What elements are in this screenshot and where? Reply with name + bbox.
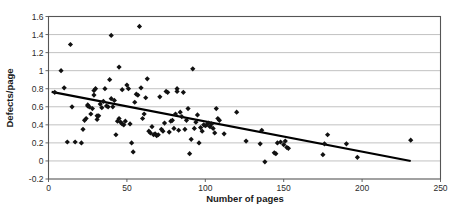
data-point [79,140,84,145]
y-axis-title: Defects/page [4,68,15,127]
x-tick-label: 250 [433,183,447,193]
data-point [120,87,125,92]
data-point [325,132,330,137]
y-axis-ticks: -0.200.20.40.60.811.21.41.6 [29,12,49,185]
data-point [127,121,132,126]
x-tick-label: 100 [198,183,212,193]
x-tick-label: 150 [277,183,291,193]
data-point [102,86,107,91]
data-point [187,151,192,156]
data-point [109,33,114,38]
x-axis-title: Number of pages [206,193,284,204]
y-tick-label: 1.2 [32,48,44,58]
y-tick-label: 1.4 [32,30,44,40]
data-point [181,90,186,95]
data-point [132,100,137,105]
data-point [182,127,187,132]
y-tick-label: 1.6 [32,12,44,22]
data-point [179,114,184,119]
scatter-points [52,24,413,165]
x-tick-label: 200 [355,183,369,193]
data-point [143,95,148,100]
data-point [189,137,194,142]
data-point [73,139,78,144]
data-point [145,76,150,81]
data-point [88,111,93,116]
data-point [157,94,162,99]
data-point [68,42,73,47]
data-point [107,77,112,82]
data-point [344,141,349,146]
data-point [178,110,183,115]
data-point [58,68,63,73]
y-tick-label: 1 [39,66,44,76]
data-point [65,139,70,144]
trendline [52,92,411,161]
data-point [80,127,85,132]
data-point [262,159,267,164]
data-point [408,138,413,143]
data-point [69,104,74,109]
x-tick-label: 0 [46,183,51,193]
y-tick-label: 0 [39,156,44,166]
x-axis-ticks: 050100150200250 [46,179,448,193]
data-point [62,85,67,90]
data-point [176,128,181,133]
trendline-segment [52,92,411,161]
data-point [140,116,145,121]
data-point [129,140,134,145]
y-tick-label: -0.2 [29,174,44,184]
data-point [137,24,142,29]
data-point [167,129,172,134]
data-point [113,132,118,137]
y-tick-label: 0.2 [32,138,44,148]
data-point [131,149,136,154]
data-point [138,85,143,90]
data-point [174,89,179,94]
data-point [91,92,96,97]
data-point [234,110,239,115]
data-point [195,112,200,117]
chart-canvas: 050100150200250 -0.200.20.40.60.811.21.4… [0,0,455,212]
data-point [116,64,121,69]
data-point [142,111,147,116]
y-tick-label: 0.8 [32,84,44,94]
data-point [171,126,176,131]
data-point [196,140,201,145]
data-point [192,126,197,131]
data-point [320,152,325,157]
y-tick-label: 0.4 [32,120,44,130]
data-point [222,131,227,136]
scatter-chart-figure: 050100150200250 -0.200.20.40.60.811.21.4… [0,0,455,212]
data-point [212,130,217,135]
x-tick-label: 50 [122,183,132,193]
data-point [258,141,263,146]
data-point [355,155,360,160]
data-point [52,90,57,95]
y-tick-label: 0.6 [32,102,44,112]
